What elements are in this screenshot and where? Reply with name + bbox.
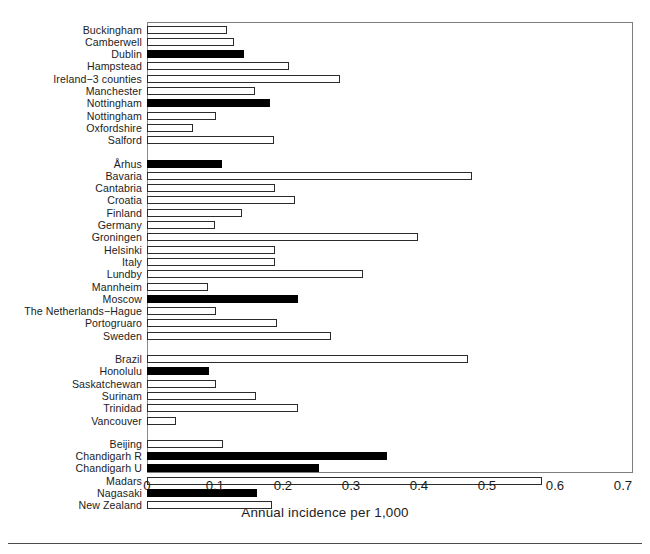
bar-row: Cantabria: [0, 183, 650, 195]
bar-row: Salford: [0, 135, 650, 147]
bar-open: [147, 283, 208, 291]
bar-open: [147, 392, 256, 400]
x-axis-ticks: 00.10.20.30.40.50.60.7: [0, 473, 650, 503]
bar-category-label: Italy: [0, 256, 142, 268]
bar-category-label: Dublin: [0, 48, 142, 60]
bar-open: [147, 270, 363, 278]
bar-row: Germany: [0, 220, 650, 232]
bar-open: [147, 332, 331, 340]
bar-row: Helsinki: [0, 244, 650, 256]
bar-row: Beijing: [0, 438, 650, 450]
bar-row: Bavaria: [0, 170, 650, 182]
bar-filled: [147, 367, 209, 375]
bar-open: [147, 136, 274, 144]
bar-category-label: Surinam: [0, 390, 142, 402]
bar-row: Lundby: [0, 269, 650, 281]
bar-category-label: Lundby: [0, 268, 142, 280]
bar-category-label: Mannheim: [0, 281, 142, 293]
bar-filled: [147, 452, 387, 460]
bar-row: Honolulu: [0, 366, 650, 378]
bar-filled: [147, 160, 222, 168]
incidence-bar-chart-figure: BuckinghamCamberwellDublinHampsteadIrela…: [0, 0, 650, 554]
bar-filled: [147, 464, 319, 472]
bar-row: Moscow: [0, 293, 650, 305]
bar-row: Dublin: [0, 49, 650, 61]
bar-category-label: Saskatchewan: [0, 378, 142, 390]
bar-category-label: Trinidad: [0, 402, 142, 414]
bar-filled: [147, 295, 298, 303]
bar-row: Buckingham: [0, 24, 650, 36]
bar-category-label: Groningen: [0, 231, 142, 243]
bar-row: Hampstead: [0, 61, 650, 73]
bar-row: Trinidad: [0, 403, 650, 415]
bar-open: [147, 319, 277, 327]
bar-category-label: Croatia: [0, 194, 142, 206]
bar-category-label: Buckingham: [0, 24, 142, 36]
bar-category-label: Sweden: [0, 330, 142, 342]
bar-category-label: Portogruaro: [0, 317, 142, 329]
bar-open: [147, 87, 255, 95]
bar-category-label: Nottingham: [0, 110, 142, 122]
bar-category-label: Oxfordshire: [0, 122, 142, 134]
bar-row: Mannheim: [0, 281, 650, 293]
bar-category-label: Ireland−3 counties: [0, 73, 142, 85]
bar-open: [147, 307, 216, 315]
bar-category-label: Nottingham: [0, 97, 142, 109]
x-tick-label: 0.2: [253, 477, 313, 495]
x-tick-label: 0.5: [457, 477, 517, 495]
bar-category-label: Bavaria: [0, 170, 142, 182]
x-axis-label: Annual incidence per 1,000: [0, 505, 650, 520]
bar-category-label: Cantabria: [0, 182, 142, 194]
x-tick-label: 0.6: [525, 477, 585, 495]
bar-open: [147, 258, 275, 266]
bar-row: Chandigarh R: [0, 451, 650, 463]
bar-category-label: Camberwell: [0, 36, 142, 48]
bar-row: Oxfordshire: [0, 122, 650, 134]
bar-row: Århus: [0, 158, 650, 170]
bar-row: Italy: [0, 256, 650, 268]
bar-row: Surinam: [0, 390, 650, 402]
bar-open: [147, 355, 468, 363]
bar-open: [147, 26, 227, 34]
bar-category-label: Hampstead: [0, 60, 142, 72]
bar-open: [147, 172, 472, 180]
bar-category-label: Århus: [0, 158, 142, 170]
bar-open: [147, 221, 215, 229]
bar-open: [147, 440, 223, 448]
bar-category-label: The Netherlands−Hague: [0, 305, 142, 317]
bar-open: [147, 184, 275, 192]
bar-open: [147, 112, 216, 120]
bar-row: Brazil: [0, 354, 650, 366]
bar-filled: [147, 99, 270, 107]
bar-row: Saskatchewan: [0, 378, 650, 390]
bar-rows-container: BuckinghamCamberwellDublinHampsteadIrela…: [0, 22, 650, 473]
bar-category-label: Vancouver: [0, 415, 142, 427]
bar-row: Sweden: [0, 330, 650, 342]
bar-open: [147, 417, 176, 425]
x-tick-label: 0.3: [321, 477, 381, 495]
x-tick-label: 0.1: [185, 477, 245, 495]
bar-row: Finland: [0, 207, 650, 219]
bar-category-label: Salford: [0, 134, 142, 146]
bar-open: [147, 233, 418, 241]
x-tick-label: 0.7: [593, 477, 650, 495]
bar-row: Groningen: [0, 232, 650, 244]
bar-row: Croatia: [0, 195, 650, 207]
bottom-divider-rule: [8, 543, 642, 544]
bar-open: [147, 246, 275, 254]
bar-open: [147, 209, 242, 217]
bar-category-label: Finland: [0, 207, 142, 219]
bar-category-label: Manchester: [0, 85, 142, 97]
bar-row: Ireland−3 counties: [0, 73, 650, 85]
bar-category-label: Helsinki: [0, 244, 142, 256]
bar-open: [147, 380, 216, 388]
bar-category-label: Honolulu: [0, 365, 142, 377]
bar-row: Nottingham: [0, 110, 650, 122]
bar-row: Camberwell: [0, 36, 650, 48]
bar-row: Portogruaro: [0, 318, 650, 330]
bar-open: [147, 62, 289, 70]
bar-category-label: Germany: [0, 219, 142, 231]
bar-filled: [147, 50, 244, 58]
bar-category-label: Moscow: [0, 293, 142, 305]
bar-category-label: Chandigarh R: [0, 450, 142, 462]
